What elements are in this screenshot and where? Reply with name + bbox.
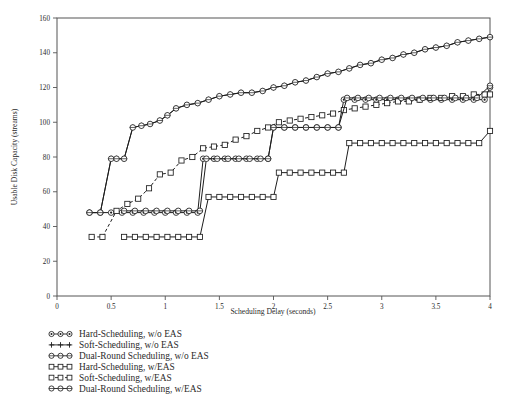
- data-marker-circle-dash: [487, 83, 493, 89]
- legend-item-0[interactable]: Hard-Scheduling, w/o EAS: [49, 329, 182, 339]
- data-marker-square: [401, 141, 406, 146]
- legend-item-2[interactable]: Dual-Round Scheduling, w/o EAS: [49, 351, 209, 361]
- data-marker-circle-dash: [344, 95, 350, 101]
- y-tick-label: 120: [39, 84, 50, 92]
- data-marker-square-dash: [136, 196, 141, 201]
- data-marker-circle-dash: [225, 156, 231, 162]
- data-marker-circle: [227, 92, 233, 98]
- data-marker-square-dash: [67, 375, 72, 380]
- data-marker-circle-dash: [409, 95, 415, 101]
- series-path: [124, 131, 490, 237]
- data-marker-circle-dash: [366, 95, 372, 101]
- data-marker-circle: [87, 210, 93, 216]
- x-tick-label: 3: [380, 303, 384, 311]
- x-tick-label: 3.5: [431, 303, 440, 311]
- data-marker-plus-cross: [58, 342, 64, 348]
- data-marker-circle: [67, 353, 72, 358]
- legend-item-3[interactable]: Hard-Scheduling, w/EAS: [49, 362, 175, 372]
- data-marker-circle: [147, 121, 153, 127]
- series-3: [122, 128, 493, 239]
- y-axis-ticks: 020406080100120140160: [39, 15, 57, 301]
- data-marker-square: [341, 170, 346, 175]
- data-marker-square: [260, 194, 265, 199]
- data-marker-plus-cross: [67, 342, 73, 348]
- data-marker-square: [412, 141, 417, 146]
- y-tick-label: 60: [43, 188, 51, 196]
- x-axis-title: Scheduling Delay (seconds): [230, 307, 316, 316]
- data-marker-circle-dash: [49, 386, 54, 391]
- data-marker-square: [390, 141, 395, 146]
- data-marker-square: [67, 364, 72, 369]
- data-marker-circle: [433, 45, 439, 51]
- data-marker-square: [422, 141, 427, 146]
- data-marker-square: [49, 364, 54, 369]
- data-marker-square-dash: [89, 234, 94, 239]
- data-marker-square: [176, 234, 181, 239]
- data-marker-square-dash: [265, 125, 270, 130]
- data-marker-square: [217, 194, 222, 199]
- legend-item-4[interactable]: Soft-Scheduling, w/EAS: [49, 373, 172, 383]
- data-marker-circle: [173, 106, 179, 112]
- data-marker-circle: [130, 125, 136, 131]
- data-marker-circle: [195, 100, 201, 106]
- data-marker-square-dash: [363, 104, 368, 109]
- data-marker-circle-dash: [121, 208, 127, 214]
- data-marker-circle: [379, 57, 385, 63]
- data-marker-circle-dash: [265, 156, 271, 162]
- chart-legend: Hard-Scheduling, w/o EASSoft-Scheduling,…: [49, 329, 209, 394]
- data-marker-square: [165, 234, 170, 239]
- data-marker-circle-dash: [420, 95, 426, 101]
- data-marker-square-dash: [352, 106, 357, 111]
- data-marker-circle: [444, 43, 450, 49]
- data-marker-circle: [108, 156, 114, 162]
- data-marker-circle-dash: [453, 95, 459, 101]
- data-marker-circle-dash: [132, 208, 138, 214]
- data-marker-circle: [325, 71, 331, 77]
- data-marker-square-dash: [276, 120, 281, 125]
- data-marker-square: [433, 141, 438, 146]
- x-tick-label: 1: [163, 303, 167, 311]
- data-marker-square: [276, 170, 281, 175]
- data-marker-circle-dash: [154, 208, 160, 214]
- data-marker-square: [477, 141, 482, 146]
- data-marker-square: [249, 194, 254, 199]
- x-tick-label: 2.5: [323, 303, 332, 311]
- data-marker-circle-dash: [325, 125, 331, 131]
- data-marker-circle: [206, 97, 212, 103]
- data-marker-square-dash: [168, 170, 173, 175]
- data-marker-circle: [58, 353, 63, 358]
- data-marker-square-dash: [487, 92, 492, 97]
- data-marker-square-dash: [49, 375, 54, 380]
- x-tick-label: 0.5: [107, 303, 116, 311]
- data-marker-square: [309, 170, 314, 175]
- data-marker-square: [271, 194, 276, 199]
- y-tick-label: 20: [43, 258, 51, 266]
- data-marker-circle-dash: [314, 125, 320, 131]
- data-marker-circle-dash: [282, 125, 288, 131]
- data-marker-circle: [98, 210, 104, 216]
- series-path: [92, 94, 490, 236]
- legend-item-1[interactable]: Soft-Scheduling, w/o EAS: [49, 340, 179, 350]
- data-marker-circle-dash: [186, 208, 192, 214]
- data-marker-circle: [422, 46, 428, 52]
- data-marker-circle-dash: [398, 95, 404, 101]
- data-marker-circle: [487, 34, 493, 40]
- y-tick-label: 80: [43, 154, 51, 162]
- data-marker-circle: [292, 79, 298, 85]
- data-marker-square-dash: [157, 172, 162, 177]
- data-marker-circle-dash: [236, 156, 242, 162]
- data-marker-square-dash: [100, 234, 105, 239]
- data-marker-square: [298, 170, 303, 175]
- legend-label: Soft-Scheduling, w/EAS: [79, 373, 172, 383]
- data-marker-circle: [184, 102, 190, 108]
- data-marker-square-dash: [255, 128, 260, 133]
- chart-figure: 00.511.522.533.54 020406080100120140160 …: [0, 0, 510, 411]
- data-marker-square: [228, 194, 233, 199]
- legend-item-5[interactable]: Dual-Round Scheduling, w/EAS: [49, 384, 202, 394]
- series-5: [121, 83, 492, 214]
- data-marker-circle: [121, 156, 127, 162]
- data-marker-square-dash: [190, 154, 195, 159]
- data-marker-circle: [476, 36, 482, 42]
- data-marker-circle: [401, 52, 407, 58]
- data-marker-circle: [238, 90, 244, 96]
